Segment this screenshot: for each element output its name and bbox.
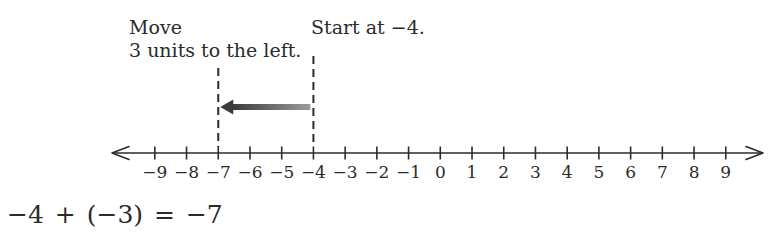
tick-label: −6	[237, 162, 262, 182]
tick-label: 1	[467, 162, 478, 182]
tick-label: −7	[206, 162, 231, 182]
tick-label: −3	[333, 162, 358, 182]
tick-label: 2	[498, 162, 509, 182]
tick-label: −5	[269, 162, 294, 182]
tick-label: −2	[364, 162, 389, 182]
tick-label: 3	[530, 162, 541, 182]
page: Move 3 units to the left. Start at −4. −…	[0, 0, 782, 239]
tick-label: −8	[174, 162, 199, 182]
tick-label: −9	[142, 162, 167, 182]
tick-label: 4	[562, 162, 573, 182]
tick-label: 9	[720, 162, 731, 182]
tick-label: 8	[689, 162, 700, 182]
tick-labels: −9−8−7−6−5−4−3−2−10123456789	[142, 162, 731, 182]
tick-label: 7	[657, 162, 668, 182]
equation: −4 + (−3) = −7	[7, 198, 223, 232]
move-arrow-head	[220, 100, 233, 115]
move-arrow-shaft	[232, 104, 310, 110]
tick-label: 0	[435, 162, 446, 182]
number-line-axis	[112, 147, 763, 160]
tick-label: −1	[396, 162, 421, 182]
move-arrow	[220, 100, 310, 115]
tick-label: −4	[301, 162, 326, 182]
tick-label: 5	[593, 162, 604, 182]
tick-label: 6	[625, 162, 636, 182]
